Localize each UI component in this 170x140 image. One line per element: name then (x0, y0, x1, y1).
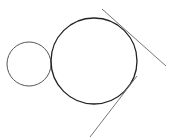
small-circle (7, 42, 51, 86)
geometry-diagram (0, 0, 170, 140)
lower-tangent-line (90, 76, 137, 137)
large-circle (51, 18, 137, 104)
upper-tangent-line (102, 9, 166, 66)
